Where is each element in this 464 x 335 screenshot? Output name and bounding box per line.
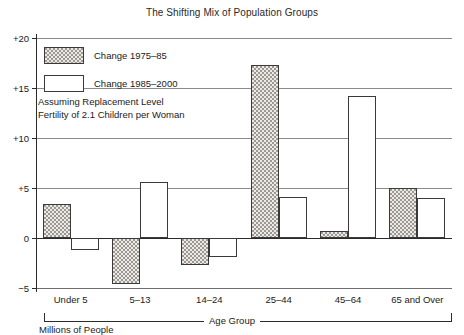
y-tick-label-+10: +10 xyxy=(13,133,29,144)
legend-item-change-1985-2000: Change 1985–2000 xyxy=(44,72,216,94)
chart-title: The Shifting Mix of Population Groups xyxy=(0,7,464,18)
y-tick-+15 xyxy=(32,88,37,89)
y-tick-label-0: 0 xyxy=(24,233,29,244)
x-axis-label-5-13: 5–13 xyxy=(129,294,150,305)
x-axis-title: Age Group xyxy=(204,315,260,326)
y-tick-0 xyxy=(32,238,37,239)
y-tick-+5 xyxy=(32,188,37,189)
assumption-note: Assuming Replacement Level Fertility of … xyxy=(38,96,185,121)
x-axis-label-65-and-over: 65 and Over xyxy=(391,294,443,305)
bracket-tip-right xyxy=(451,313,452,322)
bar-5-13-series2 xyxy=(140,182,168,238)
y-tick-label-+20: +20 xyxy=(13,33,29,44)
legend-swatch-hatched xyxy=(44,47,84,64)
bar-45-64-series2 xyxy=(348,96,376,238)
y-tick-label-+5: +5 xyxy=(18,183,29,194)
bar-under-5-series2 xyxy=(71,238,99,250)
bar-5-13-series1 xyxy=(112,238,140,284)
gridline-+10 xyxy=(36,138,452,139)
assumption-note-line-1: Assuming Replacement Level xyxy=(38,96,185,109)
y-tick-label-−5: −5 xyxy=(18,283,29,294)
bar-65-and-over-series2 xyxy=(417,198,445,238)
y-tick-label-+15: +15 xyxy=(13,83,29,94)
y-tick-+10 xyxy=(32,138,37,139)
bar-25-44-series2 xyxy=(279,197,307,238)
y-tick-+20 xyxy=(32,38,37,39)
legend: Change 1975–85 Change 1985–2000 xyxy=(44,44,216,100)
x-axis-label-under-5: Under 5 xyxy=(54,294,88,305)
legend-label-change-1985-2000: Change 1985–2000 xyxy=(94,78,177,89)
bar-14-24-series2 xyxy=(209,238,237,257)
population-change-bar-chart: The Shifting Mix of Population Groups +2… xyxy=(0,0,464,335)
bar-45-64-series1 xyxy=(320,231,348,238)
assumption-note-line-2: Fertility of 2.1 Children per Woman xyxy=(38,109,185,122)
x-axis-label-25-44: 25–44 xyxy=(265,294,291,305)
bar-under-5-series1 xyxy=(43,204,71,238)
x-axis-label-14-24: 14–24 xyxy=(196,294,222,305)
bar-14-24-series1 xyxy=(181,238,209,265)
y-tick-−5 xyxy=(32,288,37,289)
legend-item-change-1975-85: Change 1975–85 xyxy=(44,44,216,66)
bar-65-and-over-series1 xyxy=(389,188,417,238)
gridline-+20 xyxy=(36,38,452,39)
bracket-tip-left xyxy=(44,313,45,322)
y-axis-units-caption: Millions of People xyxy=(39,324,113,335)
gridline-−5 xyxy=(36,288,452,289)
bar-25-44-series1 xyxy=(251,65,279,238)
legend-swatch-open xyxy=(44,75,84,92)
legend-label-change-1975-85: Change 1975–85 xyxy=(94,50,167,61)
x-axis-label-45-64: 45–64 xyxy=(335,294,361,305)
